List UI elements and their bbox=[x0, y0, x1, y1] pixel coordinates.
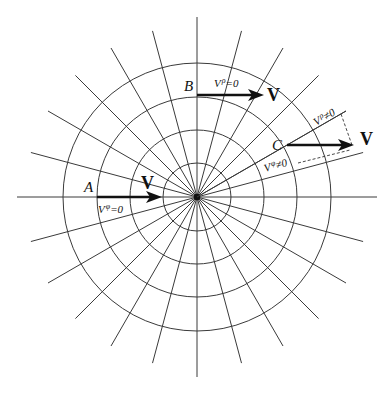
radial-projection-dashed bbox=[341, 114, 352, 145]
point-c-tangential-component-label: Vφ≠0 bbox=[262, 155, 289, 174]
ray-255 bbox=[153, 197, 198, 363]
vector-b-label: V bbox=[267, 85, 280, 105]
point-b-component-label: Vρ=0 bbox=[214, 76, 239, 89]
ray-315 bbox=[197, 197, 319, 319]
ray-165 bbox=[31, 153, 197, 198]
ray-135 bbox=[75, 75, 197, 197]
point-a-component-label: Vφ=0 bbox=[98, 202, 124, 215]
point-b-label: B bbox=[184, 78, 193, 94]
ray-105 bbox=[153, 31, 198, 197]
ray-345 bbox=[197, 197, 363, 242]
point-a-group: A V Vφ=0 bbox=[83, 173, 162, 215]
ray-285 bbox=[197, 197, 242, 363]
tangential-projection-dashed bbox=[298, 150, 350, 163]
ray-225 bbox=[75, 197, 197, 319]
polar-grid-diagram: A V Vφ=0 B V Vρ=0 C V Vρ≠0 Vφ≠0 bbox=[0, 0, 392, 393]
point-b-group: B V Vρ=0 bbox=[184, 76, 280, 105]
ray-75 bbox=[197, 31, 242, 197]
point-a-label: A bbox=[83, 179, 94, 195]
point-c-label: C bbox=[272, 137, 283, 153]
vector-a-label: V bbox=[141, 173, 154, 193]
vector-c-label: V bbox=[360, 129, 373, 149]
